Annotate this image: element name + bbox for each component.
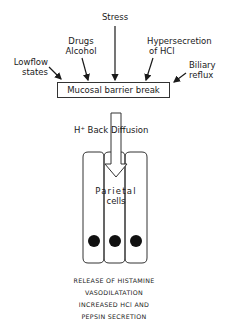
nucleus-3 — [130, 235, 142, 247]
cause-drugs-line1: Drugs — [58, 36, 104, 46]
cause-lowflow-line1: Lowflow — [4, 57, 48, 67]
back-diffusion-label: H⁺ Back Diffusion — [74, 125, 148, 135]
cause-drugs-line2: Alcohol — [58, 46, 104, 56]
cause-hypersecretion: Hypersecretion of HCl — [147, 36, 212, 56]
cause-biliary-line1: Biliary — [189, 60, 216, 70]
cause-biliary: Biliary reflux — [189, 60, 216, 80]
drugs-arrow — [82, 58, 88, 80]
cause-stress: Stress — [95, 12, 135, 22]
cause-lowflow-line2: states — [4, 67, 48, 77]
nucleus-1 — [88, 235, 100, 247]
parietal-cells-label: Parietal cells — [90, 186, 142, 206]
outcome-1: RELEASE OF HISTAMINE — [0, 276, 228, 286]
lowflow-arrow — [49, 67, 61, 79]
cause-lowflow: Lowflow states — [4, 57, 48, 77]
biliary-arrow — [174, 73, 186, 82]
outcome-4: PEPSIN SECRETION — [0, 312, 228, 322]
back-diffusion-arrow — [105, 113, 127, 177]
outcome-3: INCREASED HCl AND — [0, 300, 228, 310]
parietal-label-line1: Parietal — [90, 186, 142, 196]
cause-hyper-line2: of HCl — [147, 46, 212, 56]
parietal-label-line2: cells — [90, 196, 142, 206]
cause-drugs: Drugs Alcohol — [58, 36, 104, 56]
mucosal-barrier-box: Mucosal barrier break — [57, 82, 170, 98]
nucleus-2 — [109, 235, 121, 247]
cause-biliary-line2: reflux — [189, 70, 216, 80]
cause-hyper-line1: Hypersecretion — [147, 36, 212, 46]
hypersecretion-arrow — [146, 58, 153, 80]
outcome-2: VASODILATATION — [0, 288, 228, 298]
